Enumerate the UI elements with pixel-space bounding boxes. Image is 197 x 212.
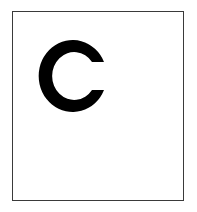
letter-c-glyph — [37, 38, 107, 114]
letter-card: C — [12, 11, 184, 201]
letter-label: C — [13, 12, 14, 13]
